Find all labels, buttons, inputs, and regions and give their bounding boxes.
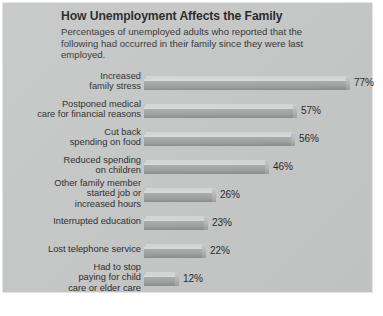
bar-category-label-line: Lost telephone service [16, 244, 141, 254]
bar-top-face [146, 216, 204, 219]
bar-category-label: Interrupted education [16, 216, 141, 226]
bar-value-label: 56% [299, 133, 319, 144]
bar-category-label-line: Other family member [16, 178, 141, 188]
chart-subtitle: Percentages of unemployed adults who rep… [61, 26, 313, 61]
bar-fill [144, 107, 293, 118]
chart-title: How Unemployment Affects the Family [61, 9, 361, 24]
bar-category-label-line: Increased [16, 71, 141, 81]
bar-row: Interrupted education23% [3, 215, 374, 243]
bar-category-label-line: Had to stop [16, 262, 141, 272]
bar-end-cap [202, 244, 206, 258]
bar-top-face [146, 160, 265, 163]
bar-top-face [146, 188, 212, 191]
bar-category-label: Cut backspending on food [16, 127, 141, 148]
bar-category-label: Had to stoppaying for childcare or elder… [16, 262, 141, 293]
bar-fill [144, 135, 291, 146]
bar-category-label-line: Cut back [16, 127, 141, 137]
bar-category-label-line: care or elder care [16, 283, 141, 293]
bar-category-label-line: family stress [16, 81, 141, 91]
bar-category-label: Other family memberstarted job orincreas… [16, 178, 141, 209]
bar-category-label: Reduced spendingon children [16, 155, 141, 176]
bar-top-face [146, 272, 175, 275]
bar-category-label: Increasedfamily stress [16, 71, 141, 92]
bar-value-label: 12% [183, 273, 203, 284]
bar-top-face [146, 244, 202, 247]
bar-fill [144, 275, 175, 286]
bar-fill [144, 247, 202, 258]
bar-value-label: 26% [220, 189, 240, 200]
bar-top-face [146, 104, 293, 107]
bar-top-face [146, 132, 291, 135]
bar-category-label-line: increased hours [16, 199, 141, 209]
bar-category-label-line: Reduced spending [16, 155, 141, 165]
bar-top-face [146, 76, 346, 79]
bar-row: Other family memberstarted job orincreas… [3, 187, 374, 215]
bar-category-label-line: Interrupted education [16, 216, 141, 226]
bar-category-label-line: spending on food [16, 137, 141, 147]
bar-value-label: 23% [212, 217, 232, 228]
bar-value-label: 46% [273, 161, 293, 172]
bar-value-label: 22% [210, 245, 230, 256]
bar-fill [144, 79, 346, 90]
bar-value-label: 77% [354, 77, 374, 88]
bar-end-cap [204, 216, 208, 230]
bar-end-cap [293, 104, 297, 118]
bar-value-label: 57% [301, 105, 321, 116]
bar-end-cap [346, 76, 350, 90]
bar-fill [144, 219, 204, 230]
bar-fill [144, 163, 265, 174]
bar-end-cap [175, 272, 179, 286]
bar-category-label-line: care for financial reasons [16, 109, 141, 119]
chart-header: How Unemployment Affects the Family Perc… [61, 9, 361, 61]
bar-end-cap [212, 188, 216, 202]
bar-category-label: Postponed medicalcare for financial reas… [16, 99, 141, 120]
bar-category-label-line: paying for child [16, 272, 141, 282]
bar-row: Had to stoppaying for childcare or elder… [3, 271, 374, 299]
bar-fill [144, 191, 212, 202]
bar-category-label: Lost telephone service [16, 244, 141, 254]
bar-category-label-line: started job or [16, 188, 141, 198]
bar-category-label-line: on children [16, 165, 141, 175]
bar-end-cap [291, 132, 295, 146]
chart-panel: How Unemployment Affects the Family Perc… [2, 2, 373, 293]
bar-chart-plot-area: Increasedfamily stress77%Postponed medic… [3, 71, 374, 294]
bar-end-cap [265, 160, 269, 174]
bar-category-label-line: Postponed medical [16, 99, 141, 109]
